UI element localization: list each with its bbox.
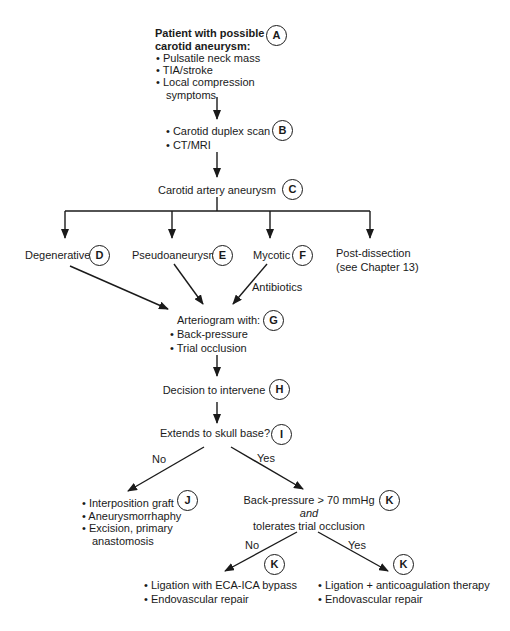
- edge-label-pressure-yes: Yes: [348, 539, 366, 551]
- node-k1-line1: Back-pressure > 70 mmHg: [243, 494, 374, 507]
- node-g-title: Arteriogram with:: [177, 314, 260, 327]
- node-g-bullet: Trial occlusion: [170, 341, 290, 355]
- node-h-label: Decision to intervene: [163, 384, 266, 397]
- node-k3-bullet: Endovascular repair: [318, 593, 508, 607]
- edge-label-antibiotics: Antibiotics: [252, 281, 302, 293]
- node-i-label: Extends to skull base?: [160, 427, 270, 440]
- node-g-bullets: Back-pressure Trial occlusion: [170, 327, 290, 355]
- node-k2-bullet: Endovascular repair: [144, 593, 309, 607]
- node-k1-badge: K: [379, 490, 400, 511]
- node-post-dissection: Post-dissection (see Chapter 13): [336, 247, 419, 274]
- node-a-badge: A: [266, 25, 287, 46]
- node-a-bullets: Pulsatile neck mass TIA/stroke Local com…: [156, 52, 276, 101]
- node-a-bullet: TIA/stroke: [156, 64, 276, 76]
- node-h-badge: H: [269, 379, 290, 400]
- node-f-label: Mycotic: [253, 249, 290, 262]
- node-k3-bullet: Ligation + anticoagulation therapy: [318, 579, 508, 593]
- node-d-badge: D: [89, 245, 110, 266]
- node-k2-badge: K: [264, 554, 285, 575]
- node-a-title-line1: Patient with possible: [155, 27, 264, 40]
- edge-label-pressure-no: No: [245, 539, 259, 551]
- node-j-bullet: Excision, primary anastomosis: [82, 522, 194, 547]
- arrow-e-to-g: [174, 264, 203, 304]
- node-i-badge: I: [271, 424, 292, 445]
- arrow-d-to-g: [70, 266, 168, 309]
- node-k3-bullets: Ligation + anticoagulation therapy Endov…: [318, 579, 508, 606]
- post-dissection-line1: Post-dissection: [336, 247, 419, 261]
- node-f-badge: F: [292, 245, 313, 266]
- flowchart-canvas: Patient with possible carotid aneurysm: …: [0, 0, 510, 631]
- node-c-label: Carotid artery aneurysm: [158, 184, 276, 197]
- node-k1-line2: and: [243, 507, 374, 520]
- edge-label-skull-yes: Yes: [257, 452, 275, 464]
- node-k1-condition: Back-pressure > 70 mmHg and tolerates tr…: [243, 494, 374, 533]
- node-a-title: Patient with possible carotid aneurysm:: [155, 27, 264, 52]
- node-b-bullet: CT/MRI: [166, 138, 296, 152]
- node-k3-badge: K: [393, 554, 414, 575]
- node-c-badge: C: [282, 179, 303, 200]
- node-e-badge: E: [212, 245, 233, 266]
- node-g-badge: G: [263, 310, 284, 331]
- node-k2-bullet: Ligation with ECA-ICA bypass: [144, 579, 309, 593]
- node-j-badge: J: [177, 490, 198, 511]
- arrow-k1-yes-to-k3: [318, 532, 388, 571]
- arrow-k1-no-to-k2: [225, 532, 297, 571]
- node-k2-bullets: Ligation with ECA-ICA bypass Endovascula…: [144, 579, 309, 606]
- node-a-title-line2: carotid aneurysm:: [155, 40, 264, 53]
- node-d-label: Degenerative: [25, 249, 90, 262]
- post-dissection-line2: (see Chapter 13): [336, 261, 419, 275]
- node-a-bullet: Local compression symptoms: [156, 76, 276, 100]
- node-a-bullet: Pulsatile neck mass: [156, 52, 276, 64]
- node-j-bullet: Aneurysmorrhaphy: [82, 510, 194, 523]
- node-k1-line3: tolerates trial occlusion: [243, 520, 374, 533]
- node-e-label: Pseudoaneurysm: [132, 249, 218, 262]
- node-b-badge: B: [272, 120, 293, 141]
- edge-label-skull-no: No: [152, 453, 166, 465]
